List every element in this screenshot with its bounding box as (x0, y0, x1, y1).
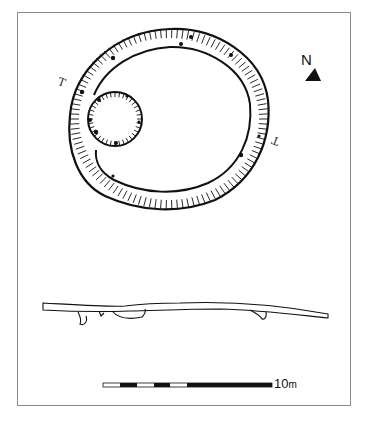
scale-unit: m (288, 379, 296, 390)
scale-label: 10m (274, 377, 297, 390)
enclosure-ditch (69, 29, 268, 209)
north-label: N (301, 52, 312, 67)
section-profile (43, 302, 328, 324)
postholes (80, 35, 261, 178)
scale-value: 10 (274, 376, 288, 391)
scale-bar (103, 383, 272, 387)
plan-drawing (0, 0, 367, 423)
inner-circle-feature (88, 92, 142, 146)
north-arrow-icon (305, 68, 321, 81)
